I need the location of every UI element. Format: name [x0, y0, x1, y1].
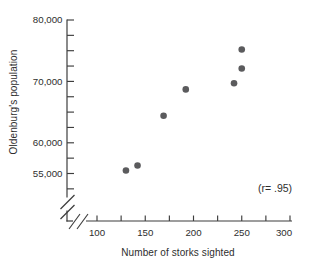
y-tick-label: 70,000 — [33, 76, 63, 87]
y-tick-label: 55,000 — [33, 168, 63, 179]
data-point — [231, 80, 238, 87]
scatter-plot-figure: 80,00070,00060,00055,000100150200250300 … — [0, 0, 312, 271]
data-point — [238, 65, 245, 72]
x-tick-label: 200 — [185, 227, 202, 238]
x-tick-label: 150 — [137, 227, 154, 238]
x-axis-title: Number of storks sighted — [121, 247, 235, 258]
x-tick-label: 250 — [234, 227, 251, 238]
data-point — [134, 162, 141, 169]
x-tick-label: 100 — [89, 227, 106, 238]
y-tick-label: 60,000 — [33, 137, 63, 148]
data-point — [123, 167, 130, 174]
plot-svg: 80,00070,00060,00055,000100150200250300 — [0, 0, 312, 271]
y-tick-label: 80,000 — [33, 14, 63, 25]
y-axis-title: Oldenburg's population — [8, 50, 19, 155]
data-point — [182, 86, 189, 93]
correlation-annotation: (r= .95) — [258, 182, 292, 194]
data-point — [160, 112, 167, 119]
x-tick-label: 300 — [276, 227, 293, 238]
data-point — [238, 46, 245, 53]
